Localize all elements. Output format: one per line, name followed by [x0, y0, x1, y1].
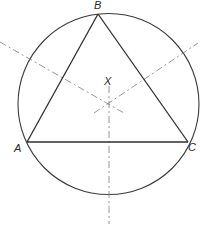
side-bc	[98, 14, 188, 142]
diagram-canvas: B A C X	[0, 0, 203, 231]
vertex-label-a: A	[13, 142, 21, 154]
side-ab	[27, 14, 98, 142]
vertex-label-b: B	[94, 0, 101, 11]
vertex-label-c: C	[188, 141, 196, 153]
center-label-x: X	[103, 75, 112, 87]
